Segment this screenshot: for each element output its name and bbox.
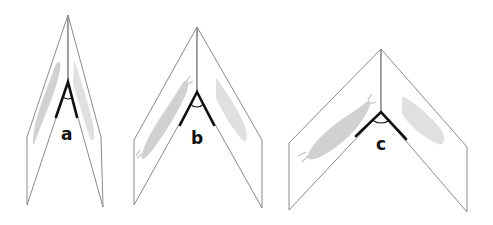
figure-a xyxy=(27,15,103,207)
diagram-canvas xyxy=(0,0,493,225)
figure-label-a: a xyxy=(61,126,72,143)
figure-b xyxy=(134,27,262,208)
angle-arc xyxy=(190,104,204,107)
figure-label-b: b xyxy=(191,130,203,147)
figure-label-c: c xyxy=(376,136,386,153)
hinged-mirrors-diagram: a b c xyxy=(0,0,493,225)
figure-c xyxy=(289,49,467,212)
left-mirror-panel xyxy=(27,15,68,205)
